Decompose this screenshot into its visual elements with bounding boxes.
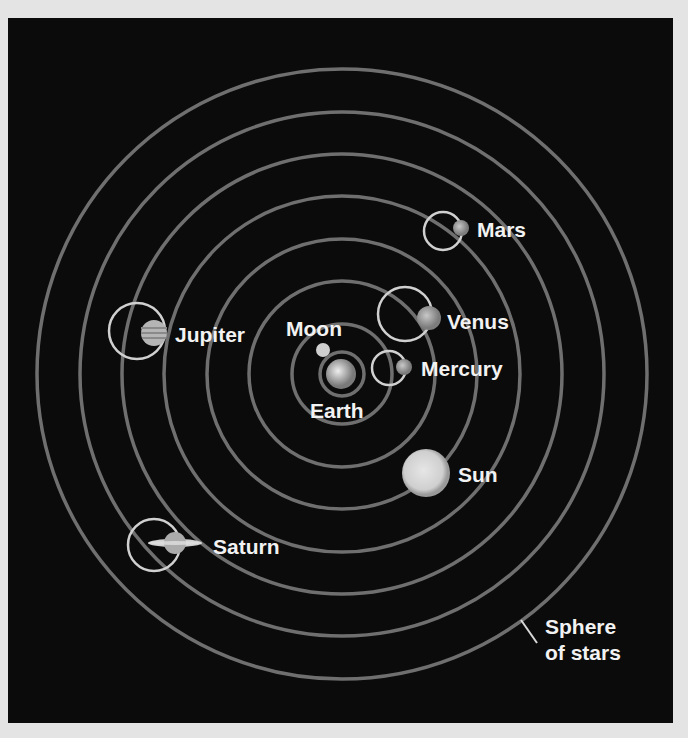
label-saturn: Saturn: [213, 536, 280, 557]
label-sun: Sun: [458, 464, 498, 485]
moon-icon: [316, 343, 330, 357]
sphere-pointer-line: [521, 620, 537, 643]
label-jupiter: Jupiter: [175, 324, 245, 345]
venus-icon: [417, 306, 441, 330]
mercury-icon: [396, 359, 412, 375]
label-sphere-line1: Sphere: [545, 614, 621, 640]
label-venus: Venus: [447, 311, 509, 332]
jupiter-icon: [141, 320, 167, 346]
label-mars: Mars: [477, 219, 526, 240]
label-moon: Moon: [286, 318, 342, 339]
label-sphere-line2: of stars: [545, 640, 621, 666]
epicycles: [109, 212, 462, 571]
mars-icon: [453, 220, 469, 236]
earth-icon: [326, 359, 356, 389]
label-mercury: Mercury: [421, 358, 503, 379]
label-earth: Earth: [310, 400, 364, 421]
label-sphere-of-stars: Sphere of stars: [545, 614, 621, 666]
sun-icon: [402, 449, 450, 497]
